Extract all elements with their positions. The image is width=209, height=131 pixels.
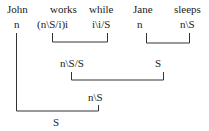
word-jane: Jane — [133, 3, 153, 15]
combine-line-sentence — [17, 33, 99, 111]
derived-modifier: n\S/S — [60, 57, 84, 69]
combine-line-vp — [72, 72, 164, 80]
derived-clause: S — [155, 57, 161, 69]
word-while: while — [89, 3, 113, 15]
derived-vp: n\S — [88, 91, 103, 103]
word-works: works — [50, 3, 77, 15]
category-jane: n — [137, 18, 143, 30]
combine-line-works-while — [53, 33, 108, 42]
category-while: i\i/S — [92, 18, 110, 30]
category-sleeps: n\S — [180, 18, 195, 30]
word-john: John — [7, 3, 28, 15]
combine-line-jane-sleeps — [147, 33, 190, 43]
category-works: (n\S/i)i — [37, 18, 68, 30]
category-john: n — [14, 18, 20, 30]
derived-sentence: S — [53, 116, 59, 128]
word-sleeps: sleeps — [174, 3, 201, 15]
